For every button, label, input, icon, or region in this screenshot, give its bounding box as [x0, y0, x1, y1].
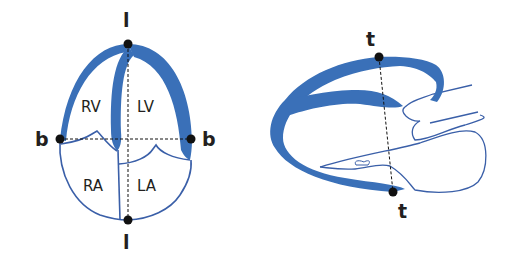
atria-outline [60, 140, 191, 220]
marker-right-b [187, 135, 196, 144]
marker-bottom-l [124, 216, 133, 225]
mitral-leaflet [355, 161, 369, 165]
mitral-valve [119, 145, 190, 164]
label-ra: RA [83, 177, 104, 195]
interatrial-septum [118, 150, 120, 220]
marker-top-l [124, 40, 133, 49]
label-point-bottom: l [123, 231, 130, 253]
tricuspid-valve [61, 131, 117, 151]
interventricular-septum [111, 47, 134, 151]
label-point-left: b [35, 128, 49, 150]
label-point-top-t: t [366, 28, 375, 50]
aortic-root-line [430, 112, 478, 123]
marker-top-t [375, 53, 384, 62]
label-lv: LV [137, 98, 155, 116]
apical-four-chamber-diagram: RV LV RA LA l l b b [35, 9, 216, 253]
label-point-bottom-t: t [398, 200, 407, 222]
marker-left-b [56, 135, 65, 144]
label-point-top: l [123, 9, 130, 31]
label-point-right: b [202, 128, 216, 150]
heart-diagrams: RV LV RA LA l l b b t t [0, 0, 505, 263]
label-la: LA [137, 177, 157, 195]
long-axis-diagram: t t [270, 28, 486, 222]
marker-bottom-t [389, 188, 398, 197]
outer-myocardial-wall [270, 57, 444, 192]
thickness-axis [379, 57, 393, 192]
label-rv: RV [81, 98, 102, 116]
